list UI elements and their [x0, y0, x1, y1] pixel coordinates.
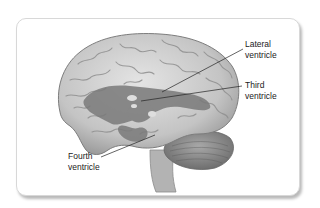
label-fourth-line2: ventricle [68, 162, 100, 173]
label-lateral-ventricle: Lateral ventricle [245, 39, 277, 61]
label-third-ventricle: Third ventricle [245, 80, 277, 102]
label-lateral-line2: ventricle [245, 50, 277, 61]
label-third-line2: ventricle [245, 91, 277, 102]
label-fourth-ventricle: Fourth ventricle [68, 151, 100, 173]
label-third-line1: Third [245, 80, 277, 91]
label-lateral-line1: Lateral [245, 39, 277, 50]
brain-illustration [0, 0, 320, 208]
label-fourth-line1: Fourth [68, 151, 100, 162]
